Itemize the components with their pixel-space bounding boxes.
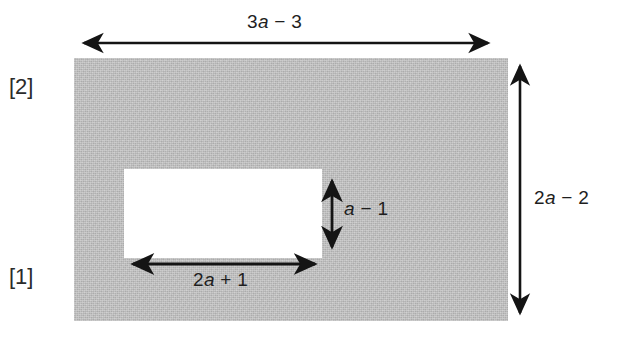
inner-height-label: a − 1 xyxy=(344,199,388,218)
dimension-arrows-layer xyxy=(0,0,619,340)
inner-width-label: 2a + 1 xyxy=(193,270,248,289)
bracket-label-upper: [2] xyxy=(9,76,33,98)
outer-height-label: 2a − 2 xyxy=(534,188,589,207)
bracket-label-lower: [1] xyxy=(9,266,33,288)
outer-width-label: 3a − 3 xyxy=(247,12,302,31)
diagram-canvas: 3a − 3 2a − 2 2a + 1 a − 1 [2] [1] xyxy=(0,0,619,340)
